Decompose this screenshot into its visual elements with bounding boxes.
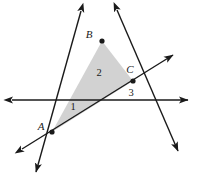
angle-label-3: 3: [128, 87, 133, 98]
vertex-label-b: B: [86, 28, 93, 40]
vertex-point-b: [99, 38, 104, 43]
angle-label-1: 1: [70, 101, 75, 112]
shaded-region: [52, 41, 133, 132]
geometry-canvas: A B C 1 2 3: [0, 0, 200, 179]
angle-label-2: 2: [96, 67, 101, 78]
vertex-point-c: [130, 78, 135, 83]
vertex-label-a: A: [37, 120, 45, 132]
geometry-diagram: A B C 1 2 3: [0, 0, 200, 179]
vertex-point-a: [49, 129, 54, 134]
line-through-a-and-b: [36, 11, 81, 172]
triangle-abc-fill: [52, 41, 133, 132]
vertex-label-c: C: [126, 63, 134, 75]
